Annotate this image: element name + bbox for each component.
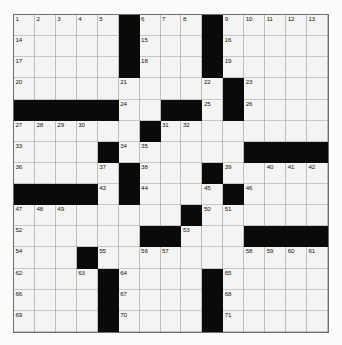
- crossword-cell[interactable]: 26: [244, 100, 265, 121]
- crossword-cell[interactable]: [98, 226, 119, 247]
- crossword-cell[interactable]: 17: [14, 57, 35, 78]
- crossword-cell[interactable]: [265, 78, 286, 99]
- crossword-cell[interactable]: [119, 121, 140, 142]
- crossword-cell[interactable]: [265, 57, 286, 78]
- crossword-cell[interactable]: [56, 311, 77, 332]
- crossword-cell[interactable]: [181, 163, 202, 184]
- crossword-cell[interactable]: [77, 290, 98, 311]
- crossword-cell[interactable]: 47: [14, 205, 35, 226]
- crossword-cell[interactable]: [77, 311, 98, 332]
- crossword-cell[interactable]: [244, 121, 265, 142]
- crossword-cell[interactable]: 41: [286, 163, 307, 184]
- crossword-cell[interactable]: 2: [35, 15, 56, 36]
- crossword-cell[interactable]: 4: [77, 15, 98, 36]
- crossword-cell[interactable]: 70: [119, 311, 140, 332]
- crossword-cell[interactable]: [161, 163, 182, 184]
- crossword-cell[interactable]: [77, 78, 98, 99]
- crossword-cell[interactable]: [35, 269, 56, 290]
- crossword-cell[interactable]: [265, 100, 286, 121]
- crossword-cell[interactable]: [77, 36, 98, 57]
- crossword-cell[interactable]: [265, 290, 286, 311]
- crossword-cell[interactable]: [140, 269, 161, 290]
- crossword-cell[interactable]: 9: [223, 15, 244, 36]
- crossword-cell[interactable]: 8: [181, 15, 202, 36]
- crossword-cell[interactable]: [56, 269, 77, 290]
- crossword-cell[interactable]: 6: [140, 15, 161, 36]
- crossword-cell[interactable]: [265, 36, 286, 57]
- crossword-cell[interactable]: [286, 311, 307, 332]
- crossword-cell[interactable]: [161, 311, 182, 332]
- crossword-cell[interactable]: [161, 142, 182, 163]
- crossword-cell[interactable]: [77, 205, 98, 226]
- crossword-cell[interactable]: [286, 57, 307, 78]
- crossword-cell[interactable]: 55: [98, 247, 119, 268]
- crossword-cell[interactable]: 7: [161, 15, 182, 36]
- crossword-cell[interactable]: [119, 247, 140, 268]
- crossword-cell[interactable]: [35, 78, 56, 99]
- crossword-cell[interactable]: 14: [14, 36, 35, 57]
- crossword-cell[interactable]: [98, 57, 119, 78]
- crossword-cell[interactable]: 23: [244, 78, 265, 99]
- crossword-cell[interactable]: [286, 78, 307, 99]
- crossword-cell[interactable]: [35, 311, 56, 332]
- crossword-cell[interactable]: [56, 226, 77, 247]
- crossword-cell[interactable]: 10: [244, 15, 265, 36]
- crossword-cell[interactable]: [244, 311, 265, 332]
- crossword-cell[interactable]: [35, 163, 56, 184]
- crossword-cell[interactable]: 56: [140, 247, 161, 268]
- crossword-cell[interactable]: [140, 100, 161, 121]
- crossword-cell[interactable]: [286, 36, 307, 57]
- crossword-cell[interactable]: 48: [35, 205, 56, 226]
- crossword-cell[interactable]: [56, 57, 77, 78]
- crossword-cell[interactable]: [77, 57, 98, 78]
- crossword-cell[interactable]: [307, 269, 328, 290]
- crossword-cell[interactable]: 38: [140, 163, 161, 184]
- crossword-cell[interactable]: 66: [14, 290, 35, 311]
- crossword-cell[interactable]: 42: [307, 163, 328, 184]
- crossword-cell[interactable]: [307, 290, 328, 311]
- crossword-cell[interactable]: [307, 205, 328, 226]
- crossword-cell[interactable]: [161, 269, 182, 290]
- crossword-cell[interactable]: [56, 163, 77, 184]
- crossword-cell[interactable]: [181, 142, 202, 163]
- crossword-cell[interactable]: 62: [14, 269, 35, 290]
- crossword-cell[interactable]: 57: [161, 247, 182, 268]
- crossword-cell[interactable]: 61: [307, 247, 328, 268]
- crossword-cell[interactable]: [77, 142, 98, 163]
- crossword-cell[interactable]: [307, 100, 328, 121]
- crossword-cell[interactable]: [307, 78, 328, 99]
- crossword-cell[interactable]: 52: [14, 226, 35, 247]
- crossword-cell[interactable]: 19: [223, 57, 244, 78]
- crossword-cell[interactable]: [223, 226, 244, 247]
- crossword-cell[interactable]: [161, 36, 182, 57]
- crossword-cell[interactable]: 36: [14, 163, 35, 184]
- crossword-cell[interactable]: [265, 205, 286, 226]
- crossword-cell[interactable]: [307, 121, 328, 142]
- crossword-cell[interactable]: 46: [244, 184, 265, 205]
- crossword-cell[interactable]: 35: [140, 142, 161, 163]
- crossword-cell[interactable]: [140, 290, 161, 311]
- crossword-cell[interactable]: [119, 205, 140, 226]
- crossword-cell[interactable]: [286, 100, 307, 121]
- crossword-cell[interactable]: 67: [119, 290, 140, 311]
- crossword-cell[interactable]: [140, 311, 161, 332]
- crossword-cell[interactable]: 13: [307, 15, 328, 36]
- crossword-cell[interactable]: [161, 78, 182, 99]
- crossword-cell[interactable]: [307, 184, 328, 205]
- crossword-cell[interactable]: 16: [223, 36, 244, 57]
- crossword-cell[interactable]: [202, 142, 223, 163]
- crossword-cell[interactable]: 51: [223, 205, 244, 226]
- crossword-cell[interactable]: 54: [14, 247, 35, 268]
- crossword-cell[interactable]: [244, 163, 265, 184]
- crossword-cell[interactable]: [181, 269, 202, 290]
- crossword-cell[interactable]: 43: [98, 184, 119, 205]
- crossword-cell[interactable]: [161, 184, 182, 205]
- crossword-cell[interactable]: [181, 78, 202, 99]
- crossword-cell[interactable]: [181, 247, 202, 268]
- crossword-cell[interactable]: 12: [286, 15, 307, 36]
- crossword-cell[interactable]: [244, 36, 265, 57]
- crossword-cell[interactable]: [181, 36, 202, 57]
- crossword-cell[interactable]: 20: [14, 78, 35, 99]
- crossword-cell[interactable]: 5: [98, 15, 119, 36]
- crossword-cell[interactable]: 3: [56, 15, 77, 36]
